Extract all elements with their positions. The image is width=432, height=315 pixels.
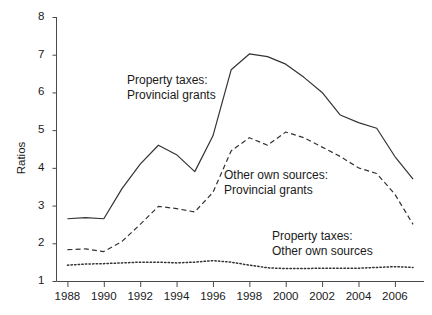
- x-axis-ticks: [68, 282, 395, 287]
- annotation-line: Other own sources: [272, 244, 373, 259]
- y-axis-tick-label: 5: [11, 124, 45, 136]
- series-line-2: [67, 261, 413, 269]
- annotation-line: Other own sources:: [224, 168, 328, 183]
- chart-plot-area: [0, 0, 432, 315]
- y-axis-tick-label: 6: [11, 86, 45, 98]
- y-axis-tick-label: 4: [11, 162, 45, 174]
- y-axis-ticks: [53, 18, 57, 282]
- chart-container: Ratios 12345678 198819901992199419961998…: [0, 0, 432, 315]
- y-axis-tick-label: 7: [11, 49, 45, 61]
- annotation-line: Provincial grants: [224, 183, 328, 198]
- annotation-line: Property taxes:: [272, 229, 373, 244]
- y-axis-tick-label: 1: [11, 275, 45, 287]
- y-axis-tick-label: 3: [11, 200, 45, 212]
- x-axis-tick-label: 2006: [370, 291, 420, 303]
- ann-property-provincial: Property taxes:Provincial grants: [127, 73, 216, 102]
- y-axis-title: Ratios: [15, 128, 27, 188]
- annotation-line: Provincial grants: [127, 88, 216, 103]
- y-axis-tick-label: 2: [11, 237, 45, 249]
- annotation-line: Property taxes:: [127, 73, 216, 88]
- y-axis-tick-label: 8: [11, 11, 45, 23]
- ann-property-other: Property taxes:Other own sources: [272, 229, 373, 258]
- ann-other-provincial: Other own sources:Provincial grants: [224, 168, 328, 197]
